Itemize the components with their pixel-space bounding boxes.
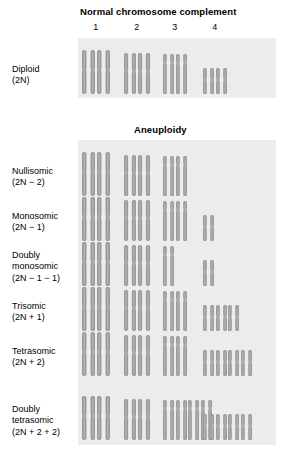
chromosome-group-tetrasomic-chr3 <box>163 336 187 376</box>
chromosome-row-diploid <box>0 48 295 94</box>
chromosome-icon <box>124 399 136 440</box>
chromosome-row-trisomic <box>0 285 295 331</box>
aneuploidy-figure: Normal chromosome complement Aneuploidy … <box>0 0 295 455</box>
chromosome-icon <box>97 332 110 376</box>
chromosome-icon <box>82 152 95 196</box>
column-number-4: 4 <box>207 22 223 32</box>
chromosome-icon <box>163 291 174 331</box>
chromosome-icon <box>124 335 136 376</box>
chromosome-icon <box>82 332 95 376</box>
chromosome-icon <box>138 53 150 94</box>
chromosome-icon <box>82 197 95 241</box>
chromosome-icon <box>82 242 95 286</box>
chromosome-icon <box>176 156 187 196</box>
chromosome-icon <box>163 156 174 196</box>
chromosome-group-doubly-monosomic-chr2 <box>124 245 150 286</box>
chromosome-icon <box>97 287 110 331</box>
chromosome-icon <box>176 201 187 241</box>
chromosome-icon <box>138 200 150 241</box>
chromosome-icon <box>176 291 187 331</box>
chromosome-group-trisomic-chr3 <box>163 291 187 331</box>
chromosome-icon <box>124 245 136 286</box>
chromosome-icon <box>203 260 214 286</box>
chromosome-group-doubly-tetrasomic-chr4 <box>203 414 252 440</box>
chromosome-icon <box>203 414 214 440</box>
chromosome-icon <box>138 335 150 376</box>
chromosome-group-doubly-tetrasomic-chr2 <box>124 399 150 440</box>
chromosome-group-tetrasomic-chr4 <box>203 350 252 376</box>
chromosome-row-doubly-tetrasomic <box>0 394 295 440</box>
column-number-2: 2 <box>129 22 145 32</box>
chromosome-group-doubly-tetrasomic-chr1 <box>82 396 110 440</box>
chromosome-group-monosomic-chr2 <box>124 200 150 241</box>
chromosome-group-diploid-chr1 <box>82 50 110 94</box>
chromosome-row-doubly-monosomic <box>0 240 295 286</box>
chromosome-icon <box>228 305 239 331</box>
chromosome-icon <box>228 350 239 376</box>
chromosome-icon <box>163 400 174 440</box>
chromosome-row-nullisomic <box>0 150 295 196</box>
chromosome-group-doubly-monosomic-chr1 <box>82 242 110 286</box>
chromosome-icon <box>82 50 95 94</box>
chromosome-icon <box>138 155 150 196</box>
chromosome-icon <box>97 152 110 196</box>
chromosome-icon <box>176 336 187 376</box>
chromosome-icon <box>163 336 174 376</box>
chromosome-group-trisomic-chr1 <box>82 287 110 331</box>
column-number-row: 1234 <box>78 22 276 36</box>
chromosome-icon <box>138 290 150 331</box>
chromosome-icon <box>82 287 95 331</box>
chromosome-icon <box>188 400 199 440</box>
chromosome-group-monosomic-chr3 <box>163 201 187 241</box>
chromosome-icon <box>124 200 136 241</box>
chromosome-icon <box>124 290 136 331</box>
chromosome-icon <box>163 246 174 286</box>
chromosome-group-nullisomic-chr3 <box>163 156 187 196</box>
chromosome-icon <box>82 396 95 440</box>
chromosome-group-doubly-monosomic-chr4 <box>203 260 214 286</box>
chromosome-group-trisomic-chr2 <box>124 290 150 331</box>
chromosome-icon <box>216 305 227 331</box>
chromosome-icon <box>203 350 214 376</box>
heading-normal-complement: Normal chromosome complement <box>80 6 236 17</box>
chromosome-group-nullisomic-chr1 <box>82 152 110 196</box>
chromosome-group-diploid-chr4 <box>203 68 227 94</box>
chromosome-icon <box>138 245 150 286</box>
column-number-1: 1 <box>88 22 104 32</box>
chromosome-icon <box>163 201 174 241</box>
chromosome-group-nullisomic-chr2 <box>124 155 150 196</box>
chromosome-icon <box>203 215 214 241</box>
chromosome-icon <box>97 396 110 440</box>
chromosome-icon <box>216 68 227 94</box>
chromosome-icon <box>176 400 187 440</box>
chromosome-icon <box>163 54 174 94</box>
chromosome-row-monosomic <box>0 195 295 241</box>
chromosome-icon <box>241 350 252 376</box>
chromosome-icon <box>216 350 227 376</box>
chromosome-icon <box>138 399 150 440</box>
chromosome-icon <box>216 414 227 440</box>
chromosome-group-diploid-chr2 <box>124 53 150 94</box>
chromosome-group-doubly-monosomic-chr3 <box>163 246 174 286</box>
chromosome-icon <box>203 68 214 94</box>
chromosome-group-monosomic-chr4 <box>203 215 214 241</box>
chromosome-icon <box>228 414 239 440</box>
chromosome-icon <box>203 305 214 331</box>
chromosome-icon <box>97 50 110 94</box>
heading-aneuploidy: Aneuploidy <box>134 124 187 135</box>
chromosome-group-monosomic-chr1 <box>82 197 110 241</box>
column-number-3: 3 <box>167 22 183 32</box>
chromosome-group-tetrasomic-chr1 <box>82 332 110 376</box>
chromosome-group-diploid-chr3 <box>163 54 187 94</box>
chromosome-icon <box>124 155 136 196</box>
chromosome-icon <box>241 414 252 440</box>
chromosome-group-tetrasomic-chr2 <box>124 335 150 376</box>
chromosome-icon <box>97 197 110 241</box>
chromosome-icon <box>176 54 187 94</box>
chromosome-row-tetrasomic <box>0 330 295 376</box>
chromosome-icon <box>124 53 136 94</box>
chromosome-icon <box>97 242 110 286</box>
chromosome-group-trisomic-chr4 <box>203 305 239 331</box>
